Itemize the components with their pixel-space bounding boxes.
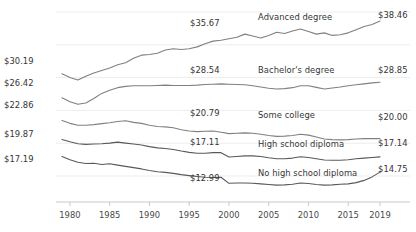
left-value-label-3: $19.87 [4, 129, 34, 139]
mid-value-label-2: $20.79 [190, 108, 220, 118]
left-value-label-1: $26.42 [4, 78, 34, 88]
x-tick-label-2005: 2005 [258, 210, 280, 220]
series-label-2: Some college [258, 110, 315, 120]
series-lines [62, 21, 380, 185]
series-label-4: No high school diploma [258, 168, 357, 178]
mid-value-label-0: $35.67 [190, 18, 220, 28]
chart-container: $30.19$26.42$22.86$19.87$17.19 $35.67$28… [0, 0, 416, 232]
x-tick-label-2010: 2010 [298, 210, 320, 220]
gridlines [56, 12, 410, 176]
right-value-label-0: $38.46 [378, 10, 408, 20]
right-value-label-3: $17.14 [378, 138, 408, 148]
right-value-label-1: $28.85 [378, 65, 408, 75]
x-tick-label-1995: 1995 [178, 210, 200, 220]
x-tick-label-2015: 2015 [337, 210, 359, 220]
series-line-2 [62, 120, 380, 140]
mid-value-label-4: $12.99 [190, 173, 220, 183]
series-line-1 [62, 82, 380, 104]
x-tick-label-1985: 1985 [99, 210, 121, 220]
right-value-label-4: $14.75 [378, 164, 408, 174]
x-tick-label-2019: 2019 [369, 210, 391, 220]
series-label-0: Advanced degree [258, 12, 332, 22]
x-tick-label-1990: 1990 [139, 210, 161, 220]
x-tick-label-2000: 2000 [218, 210, 240, 220]
series-label-1: Bachelor's degree [258, 65, 334, 75]
series-label-3: High school diploma [258, 139, 344, 149]
mid-value-label-1: $28.54 [190, 65, 220, 75]
left-value-label-2: $22.86 [4, 100, 34, 110]
x-tick-label-1980: 1980 [59, 210, 81, 220]
left-value-label-0: $30.19 [4, 56, 34, 66]
mid-value-label-3: $17.11 [190, 137, 220, 147]
x-axis-ticks [70, 202, 380, 206]
left-value-label-4: $17.19 [4, 154, 34, 164]
right-value-label-2: $20.00 [378, 112, 408, 122]
